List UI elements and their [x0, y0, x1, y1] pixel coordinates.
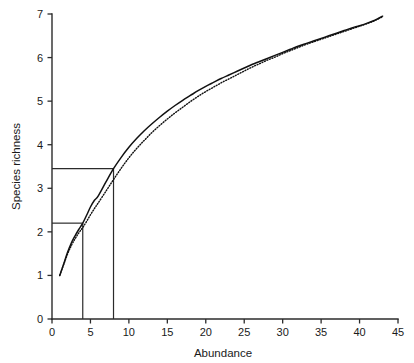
- x-tick-label: 35: [315, 326, 327, 338]
- tick-labels-group: 05101520253035404501234567: [37, 8, 404, 338]
- solid-rarefaction-curve: [60, 16, 383, 275]
- y-tick-label: 6: [37, 52, 43, 64]
- y-tick-label: 2: [37, 226, 43, 238]
- chart-figure: 05101520253035404501234567 Abundance Spe…: [0, 0, 414, 363]
- species-richness-abundance-chart: 05101520253035404501234567 Abundance Spe…: [0, 0, 414, 363]
- x-tick-label: 15: [161, 326, 173, 338]
- y-tick-label: 5: [37, 95, 43, 107]
- x-tick-label: 0: [49, 326, 55, 338]
- x-axis-title: Abundance: [194, 347, 252, 359]
- x-tick-label: 25: [238, 326, 250, 338]
- dotted-rarefaction-curve: [60, 17, 383, 276]
- reference-marker-low: [52, 223, 83, 319]
- y-tick-label: 4: [37, 139, 43, 151]
- x-tick-label: 20: [200, 326, 212, 338]
- x-tick-label: 10: [123, 326, 135, 338]
- y-tick-label: 1: [37, 269, 43, 281]
- y-tick-label: 3: [37, 182, 43, 194]
- reference-lines-group: [52, 169, 114, 319]
- y-tick-label: 0: [37, 313, 43, 325]
- x-tick-label: 45: [392, 326, 404, 338]
- x-tick-label: 40: [353, 326, 365, 338]
- axes-group: [52, 14, 398, 319]
- data-curves-group: [60, 16, 383, 275]
- x-tick-label: 30: [277, 326, 289, 338]
- x-tick-label: 5: [87, 326, 93, 338]
- y-tick-label: 7: [37, 8, 43, 20]
- y-axis-title: Species richness: [10, 123, 22, 210]
